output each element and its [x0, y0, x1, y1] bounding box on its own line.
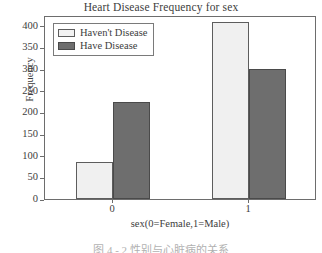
legend-swatch-have-disease	[58, 42, 75, 50]
y-axis-tick-mark	[40, 91, 44, 92]
y-axis-tick-mark	[40, 156, 44, 157]
legend-item-have-disease: Have Disease	[58, 39, 148, 52]
x-axis-ticks: 01	[44, 200, 316, 220]
y-axis-tick-label: 400	[22, 20, 38, 31]
y-axis-tick-label: 150	[22, 128, 38, 139]
chart-figure: Heart Disease Frequency for sex Haven't …	[0, 0, 322, 253]
chart-title: Heart Disease Frequency for sex	[0, 1, 322, 13]
y-axis-tick-mark	[40, 26, 44, 27]
legend-label-have-disease: Have Disease	[80, 40, 137, 52]
bar-0-series-1	[113, 102, 150, 199]
y-axis-tick-mark	[40, 178, 44, 179]
y-axis-tick-mark	[40, 113, 44, 114]
x-axis-label: sex(0=Female,1=Male)	[44, 218, 316, 229]
y-axis-tick-mark	[40, 48, 44, 49]
plot-area: Haven't Disease Have Disease	[44, 16, 316, 200]
chart-legend: Haven't Disease Have Disease	[53, 23, 154, 56]
y-axis-tick-label: 0	[33, 193, 38, 204]
y-axis-tick-mark	[40, 70, 44, 71]
bar-1-series-0	[212, 22, 249, 200]
y-axis-tick-mark	[40, 135, 44, 136]
x-axis-tick-label: 0	[92, 203, 132, 214]
bar-1-series-1	[249, 69, 286, 199]
legend-swatch-havent-disease	[58, 29, 75, 37]
y-axis-label: Frequency	[24, 35, 35, 125]
figure-caption: 图 4 - 2 性别与心脏病的关系	[0, 241, 322, 253]
x-axis-tick-label: 1	[228, 203, 268, 214]
legend-label-havent-disease: Haven't Disease	[80, 27, 148, 39]
y-axis-ticks: 050100150200250300350400	[0, 0, 44, 184]
y-axis-tick-label: 100	[22, 150, 38, 161]
legend-item-havent-disease: Haven't Disease	[58, 26, 148, 39]
y-axis-tick-label: 50	[28, 171, 39, 182]
bar-0-series-0	[76, 162, 113, 199]
